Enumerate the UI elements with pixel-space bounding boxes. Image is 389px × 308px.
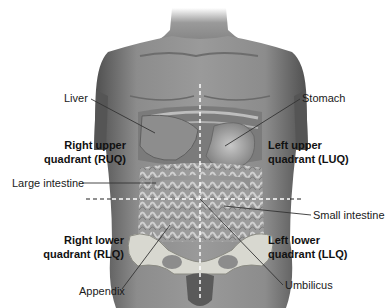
- small-intestine: [152, 180, 250, 242]
- label-stomach: Stomach: [302, 92, 345, 104]
- llq-line2: quadrant (LLQ): [268, 247, 378, 261]
- rlq-line2: quadrant (RLQ): [30, 247, 124, 261]
- label-llq: Left lower quadrant (LLQ): [268, 233, 378, 261]
- ruq-line2: quadrant (RUQ): [34, 152, 126, 166]
- ruq-line1: Right upper: [34, 138, 126, 152]
- luq-line2: quadrant (LUQ): [268, 152, 378, 166]
- label-appendix: Appendix: [79, 285, 125, 297]
- luq-line1: Left upper: [268, 138, 378, 152]
- label-small-intestine: Small intestine: [313, 209, 385, 221]
- llq-line1: Left lower: [268, 233, 378, 247]
- label-ruq: Right upper quadrant (RUQ): [34, 138, 126, 166]
- label-luq: Left upper quadrant (LUQ): [268, 138, 378, 166]
- rlq-line1: Right lower: [30, 233, 124, 247]
- abdominal-quadrants-diagram: Liver Stomach Large intestine Small inte…: [0, 0, 389, 308]
- label-liver: Liver: [64, 92, 88, 104]
- label-umbilicus: Umbilicus: [285, 279, 333, 291]
- label-large-intestine: Large intestine: [12, 177, 84, 189]
- label-rlq: Right lower quadrant (RLQ): [30, 233, 124, 261]
- stomach: [206, 123, 255, 169]
